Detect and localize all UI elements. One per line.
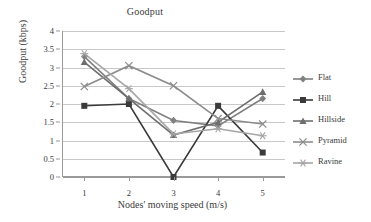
legend-marker-triangle-icon: [292, 113, 314, 125]
series-layer: [62, 31, 285, 177]
legend-label: Ravine: [318, 156, 342, 166]
series-line-flat: [84, 57, 262, 126]
y-tick-mark: [56, 140, 60, 141]
legend-item-ravine[interactable]: Ravine: [292, 150, 368, 171]
y-tick-mark: [56, 122, 60, 123]
legend-marker-diamond-icon: [292, 71, 314, 83]
marker-triangle: [259, 88, 266, 95]
y-tick-mark: [56, 67, 60, 68]
y-tick-label: 4: [50, 26, 54, 36]
legend-marker-x-icon: [292, 134, 314, 146]
y-tick-label: 1: [50, 136, 54, 146]
marker-x: [81, 83, 88, 90]
x-tick-label: 4: [216, 188, 220, 198]
marker-x: [125, 62, 132, 69]
legend-marker-square-icon: [292, 92, 314, 104]
marker-star: [299, 159, 307, 166]
marker-x: [170, 82, 177, 89]
x-tick-mark: [129, 177, 130, 181]
marker-diamond: [300, 75, 307, 82]
x-tick-label: 5: [261, 188, 265, 198]
x-tick-label: 1: [82, 188, 86, 198]
marker-diamond: [259, 95, 266, 102]
legend-label: Hill: [318, 93, 331, 103]
x-tick-mark: [174, 177, 175, 181]
chart-legend: FlatHillHillsidePyramidRavine: [292, 66, 368, 171]
legend-item-flat[interactable]: Flat: [292, 66, 368, 87]
marker-square: [81, 103, 87, 109]
marker-diamond: [170, 117, 177, 124]
y-tick-mark: [56, 85, 60, 86]
marker-square: [300, 97, 306, 103]
goodput-line-chart: Goodput Goodput (kbps) 00.511.522.533.54…: [0, 0, 371, 222]
y-tick-label: 0.5: [43, 154, 54, 164]
legend-label: Hillside: [318, 114, 345, 124]
x-axis-label: Nodes' moving speed (m/s): [40, 199, 305, 210]
y-tick-label: 0: [50, 172, 54, 182]
x-tick-label: 3: [171, 188, 175, 198]
y-tick-label: 3: [50, 63, 54, 73]
x-tick-mark: [84, 177, 85, 181]
legend-label: Flat: [318, 72, 331, 82]
y-tick-label: 1.5: [43, 117, 54, 127]
marker-star: [259, 132, 267, 139]
legend-marker-star-icon: [292, 155, 314, 167]
y-tick-mark: [56, 104, 60, 105]
y-tick-mark: [56, 177, 60, 178]
marker-square: [215, 103, 221, 109]
y-tick-label: 2: [50, 99, 54, 109]
x-tick-mark: [263, 177, 264, 181]
legend-item-hill[interactable]: Hill: [292, 87, 368, 108]
y-axis-ticks: 00.511.522.533.54: [0, 31, 60, 177]
x-tick-mark: [218, 177, 219, 181]
y-tick-mark: [56, 31, 60, 32]
y-tick-mark: [56, 158, 60, 159]
marker-square: [126, 101, 132, 107]
legend-label: Pyramid: [318, 135, 347, 145]
legend-item-hillside[interactable]: Hillside: [292, 108, 368, 129]
y-tick-label: 2.5: [43, 81, 54, 91]
y-tick-mark: [56, 49, 60, 50]
marker-square: [260, 150, 266, 156]
legend-item-pyramid[interactable]: Pyramid: [292, 129, 368, 150]
chart-title: Goodput: [0, 6, 290, 17]
y-tick-label: 3.5: [43, 44, 54, 54]
x-tick-label: 2: [127, 188, 131, 198]
